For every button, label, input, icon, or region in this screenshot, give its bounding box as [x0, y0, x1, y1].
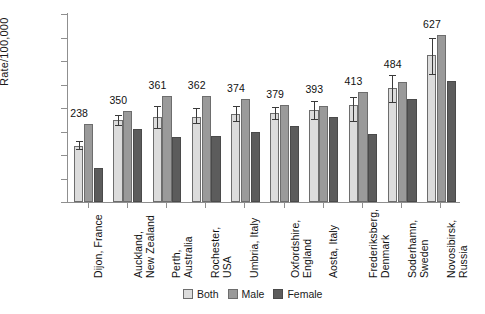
y-axis-title: Rate/100,000 — [0, 18, 10, 86]
chart-figure: Rate/100,000 0100200300400500600700800 D… — [0, 0, 485, 314]
bar-both — [270, 113, 279, 202]
error-bar-both — [353, 97, 354, 122]
bar-male — [241, 99, 250, 202]
bar-male — [319, 106, 328, 202]
error-bar-both — [314, 101, 315, 121]
bar-group — [231, 14, 260, 202]
bar-female — [290, 126, 299, 202]
bar-both — [231, 114, 240, 202]
bar-value-label: 362 — [188, 79, 206, 91]
bar-female — [447, 81, 456, 202]
x-axis-label: Frederiksberg, Denmark — [367, 212, 391, 278]
legend-swatch-male-icon — [228, 289, 238, 299]
bar-both — [192, 117, 201, 202]
bar-female — [329, 117, 338, 202]
legend-item-male: Male — [228, 288, 265, 300]
legend-label-both: Both — [197, 288, 219, 300]
x-axis-tick — [284, 203, 285, 208]
bar-value-label: 393 — [305, 83, 323, 95]
error-bar-both — [157, 106, 158, 129]
x-axis-label: Dijon, France — [92, 212, 104, 278]
bar-male — [358, 92, 367, 202]
bar-male — [280, 105, 289, 202]
bar-value-label: 627 — [423, 18, 441, 30]
legend-label-male: Male — [242, 288, 265, 300]
x-axis-tick — [127, 203, 128, 208]
legend-item-female: Female — [273, 288, 322, 300]
chart-legend: Both Male Female — [183, 288, 322, 300]
bar-group — [349, 14, 378, 202]
bar-value-label: 350 — [109, 94, 127, 106]
bar-male — [123, 111, 132, 202]
x-axis-tick — [362, 203, 363, 208]
bar-male — [437, 35, 446, 202]
x-axis-label: Auckland, New Zealand — [132, 212, 156, 278]
bar-value-label: 374 — [227, 82, 245, 94]
error-bar-both — [236, 106, 237, 122]
bar-group — [113, 14, 142, 202]
bar-group — [309, 14, 338, 202]
bar-male — [202, 96, 211, 202]
x-axis-tick — [244, 203, 245, 208]
x-axis-label: Umbria, Italy — [248, 212, 260, 278]
error-bar-both — [196, 108, 197, 124]
x-axis-tick — [205, 203, 206, 208]
error-bar-both — [118, 115, 119, 126]
x-axis-label: Soderhamn, Sweden — [406, 212, 430, 278]
x-axis-tick — [401, 203, 402, 208]
legend-label-female: Female — [287, 288, 322, 300]
bar-value-label: 379 — [266, 88, 284, 100]
x-axis-label: Aosta, Italy — [327, 212, 339, 278]
plot-area — [68, 14, 460, 202]
legend-swatch-both-icon — [183, 289, 193, 299]
bar-value-label: 413 — [345, 75, 363, 87]
bar-value-label: 361 — [149, 79, 167, 91]
x-axis-label: Novosibirsk, Russia — [445, 212, 469, 278]
bar-female — [251, 132, 260, 202]
bar-female — [407, 99, 416, 202]
bar-male — [84, 124, 93, 202]
bar-male — [398, 82, 407, 202]
bar-both — [113, 120, 122, 202]
error-bar-both — [432, 38, 433, 76]
bar-group — [388, 14, 417, 202]
x-axis-label: Rochester, USA — [209, 212, 233, 278]
bar-female — [211, 136, 220, 202]
x-axis-label: Oxfordshire, England — [289, 212, 313, 278]
bar-group — [270, 14, 299, 202]
x-axis-tick — [323, 203, 324, 208]
bar-female — [172, 137, 181, 202]
legend-swatch-female-icon — [273, 289, 283, 299]
bar-both — [388, 88, 397, 202]
bar-both — [74, 146, 83, 202]
error-bar-both — [275, 107, 276, 120]
bar-group — [153, 14, 182, 202]
error-bar-both — [392, 75, 393, 103]
x-axis-tick — [440, 203, 441, 208]
bar-female — [94, 168, 103, 202]
bar-group — [192, 14, 221, 202]
bar-male — [162, 96, 171, 202]
legend-item-both: Both — [183, 288, 219, 300]
bar-both — [427, 55, 436, 202]
bar-female — [133, 129, 142, 202]
bar-female — [368, 134, 377, 202]
error-bar-both — [79, 141, 80, 150]
x-axis-tick — [166, 203, 167, 208]
x-axis-label: Perth, Australia — [170, 212, 194, 278]
bar-group — [427, 14, 456, 202]
bar-value-label: 238 — [70, 107, 88, 119]
bar-both — [309, 110, 318, 202]
x-axis-tick — [88, 203, 89, 208]
bar-both — [153, 117, 162, 202]
bar-value-label: 484 — [384, 58, 402, 70]
